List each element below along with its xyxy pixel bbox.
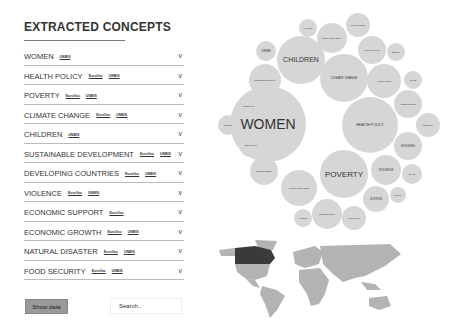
concept-bubble[interactable]: JUSTICE [363, 186, 389, 212]
concept-bubble[interactable]: FINANCE [299, 19, 317, 37]
bubble-label: EDUCATION POLICY [322, 37, 342, 39]
bubble-label: INEQUALITY [243, 105, 256, 107]
concept-bubble[interactable]: EDUCATION [239, 133, 263, 157]
bubble-label: HOUSING [401, 144, 416, 148]
chevron-down-icon[interactable]: v [179, 267, 183, 274]
bubble-label: TRADE [410, 79, 417, 81]
bubble-label: FINANCE [304, 27, 313, 29]
search-input[interactable]: Search.. [110, 298, 182, 314]
bubble-label: FOOD SECURITY [319, 213, 336, 215]
concept-bubble[interactable]: CONSUMPTION [394, 90, 422, 118]
concept-bubble[interactable]: ENERGY [387, 43, 405, 61]
chevron-down-icon[interactable]: v [179, 247, 183, 254]
bubble-label: LABOUR [299, 217, 308, 219]
concept-bubble[interactable]: POVERTY [320, 150, 368, 198]
vocabulary-tag-link[interactable]: UNBIS [124, 250, 135, 254]
concept-bubble[interactable]: HOUSING [394, 132, 422, 160]
concept-name: FOOD SECURITY [24, 267, 86, 276]
concept-bubble[interactable]: HUMAN RIGHTS [358, 36, 386, 64]
bubble-label: ECONOMIC GROWTH [255, 79, 276, 81]
bubble-label: SECURITY [423, 124, 434, 126]
bubble-label: DEVELOPMENT [256, 170, 272, 172]
concept-bubble[interactable]: CHILDREN [277, 36, 325, 84]
concept-bubble[interactable]: HEALTH [390, 187, 406, 203]
bubble-label: WOMEN [240, 116, 295, 132]
map-usa [235, 264, 270, 280]
bubble-label: EMPLOYMENT [351, 24, 366, 26]
concept-bubble[interactable]: NATURAL DISASTER [281, 170, 317, 206]
concept-bubble[interactable]: VIOLENCE [371, 155, 401, 185]
bubble-label: POVERTY [325, 170, 364, 179]
bubble-label: EDUCATION [245, 144, 257, 146]
map-south-america [260, 286, 285, 318]
bubble-label: MIGRATION [348, 217, 360, 219]
bubble-label: CONSUMPTION [401, 103, 417, 105]
concept-bubble-chart: WOMENCHILDRENCLIMATE CHANGEHEALTH POLICY… [0, 0, 459, 235]
bubble-label: CLIMATE CHANGE [331, 76, 357, 80]
bubble-label: HUMAN RIGHTS [364, 49, 380, 51]
concept-bubble[interactable]: EMPLOYMENT [346, 13, 370, 37]
bubble-label: ENERGY [392, 51, 401, 53]
world-map[interactable] [215, 238, 415, 328]
concept-bubble[interactable]: LABOUR [294, 209, 312, 227]
map-asia [320, 244, 401, 282]
concept-bubble[interactable]: SECURITY [416, 113, 440, 137]
concept-bubble[interactable]: PEACE [402, 164, 422, 184]
map-southeast-asia [361, 282, 381, 290]
concept-bubble[interactable]: CLIMATE CHANGE [320, 54, 368, 102]
bubble-label: HEALTH POLICY [356, 123, 384, 127]
concept-bubble[interactable]: DEVELOPMENT [250, 157, 278, 185]
concept-row[interactable]: NATURAL DISASTEREuroVocUNBISv [24, 241, 184, 261]
bubble-label: NATURAL DISASTER [289, 187, 309, 189]
concept-bubble[interactable]: INEQUALITY [238, 95, 260, 117]
map-alaska [219, 248, 235, 256]
bubble-label: CITIZEN [224, 124, 232, 126]
concept-bubble[interactable]: ECONOMIC GROWTH [249, 64, 281, 96]
bubble-label: HEALTH [394, 194, 402, 196]
bubble-label: PEACE [409, 173, 416, 175]
concept-row[interactable]: FOOD SECURITYEuroVocUNBISv [24, 261, 184, 281]
concept-bubble[interactable]: CRIME [256, 41, 276, 61]
vocabulary-tag-link[interactable]: EuroVoc [104, 250, 118, 254]
bubble-label: AGRICULTURE [377, 80, 392, 82]
vocabulary-tag-link[interactable]: UNBIS [112, 269, 123, 273]
bubble-label: VIOLENCE [378, 168, 393, 172]
concept-bubble[interactable]: TRADE [404, 71, 422, 89]
concept-bubble[interactable]: FOOD SECURITY [312, 199, 342, 229]
map-europe [293, 246, 323, 268]
show-data-button[interactable]: Show data [25, 299, 68, 314]
map-africa [299, 268, 329, 306]
bubble-label: CHILDREN [283, 56, 319, 63]
concept-bubble[interactable]: AGRICULTURE [367, 64, 401, 98]
concept-bubble[interactable]: EDUCATION POLICY [317, 23, 347, 53]
vocabulary-tag-link[interactable]: EuroVoc [92, 269, 106, 273]
concept-bubble[interactable]: MIGRATION [342, 206, 366, 230]
bubble-label: JUSTICE [370, 197, 383, 201]
concept-bubble[interactable]: CITIZEN [218, 115, 238, 135]
bubble-label: CRIME [261, 49, 271, 53]
concept-bubble[interactable]: HEALTH POLICY [342, 97, 398, 153]
map-australia [369, 296, 391, 310]
map-central-america [245, 278, 260, 288]
concept-name: NATURAL DISASTER [24, 247, 98, 256]
